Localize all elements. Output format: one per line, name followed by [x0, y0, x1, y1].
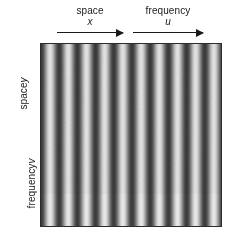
figure-root: space x frequency u space y: [0, 0, 229, 237]
arrow-right-frequency-u: [133, 28, 203, 37]
axis-frequency-u-variable: u: [165, 16, 171, 27]
axis-frequency-u: frequency u: [133, 5, 203, 37]
axis-space-y-word: space: [18, 82, 29, 109]
grating-surface: [41, 44, 221, 226]
arrow-right-space-x: [57, 28, 123, 37]
axis-space-y-label: space y: [18, 77, 29, 109]
arrow-shaft: [57, 32, 123, 33]
arrow-head-right-icon: [196, 29, 204, 37]
axis-frequency-v-word: frequency: [26, 164, 37, 209]
grating-panel: [40, 43, 222, 227]
axis-frequency-v-variable: v: [26, 159, 37, 164]
axis-space-x-word: space: [76, 5, 103, 16]
axis-space-x-variable: x: [88, 16, 93, 27]
axis-space-y-variable: y: [18, 77, 29, 82]
axis-space-x: space x: [57, 5, 123, 37]
arrow-head-right-icon: [116, 29, 124, 37]
arrow-shaft: [133, 32, 203, 33]
axis-frequency-v-label: frequency v: [26, 159, 37, 209]
axis-frequency-u-word: frequency: [146, 5, 191, 16]
